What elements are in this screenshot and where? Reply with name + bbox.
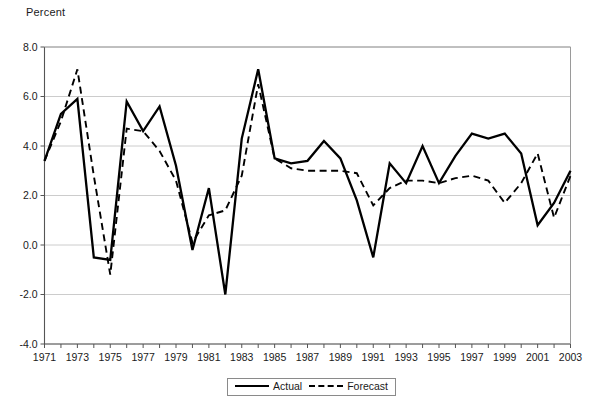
chart-container: Percent 8.06.04.02.00.0-2.0-4.0 19711973… xyxy=(0,0,597,407)
x-tick-label: 1989 xyxy=(329,351,353,363)
x-tick-label: 1979 xyxy=(164,351,188,363)
legend-label-actual: Actual xyxy=(273,381,302,392)
y-tick-label: 4.0 xyxy=(23,140,38,152)
y-axis-ticks: 8.06.04.02.00.0-2.0-4.0 xyxy=(19,41,44,350)
x-tick-label: 1985 xyxy=(263,351,287,363)
x-tick-label: 1975 xyxy=(99,351,123,363)
series-line-forecast xyxy=(45,69,571,274)
legend-entry-actual: Actual xyxy=(235,381,302,392)
x-axis-ticks: 1971197319751977197919811983198519871989… xyxy=(33,344,583,363)
x-tick-label: 1999 xyxy=(493,351,517,363)
chart-legend: Actual Forecast xyxy=(227,378,396,396)
series-line-actual xyxy=(45,69,571,294)
legend-swatch-actual-solid-line xyxy=(235,385,269,387)
y-tick-label: -2.0 xyxy=(19,288,37,300)
line-chart-plot: 8.06.04.02.00.0-2.0-4.0 1971197319751977… xyxy=(0,0,597,407)
x-tick-label: 1987 xyxy=(296,351,320,363)
gridlines xyxy=(45,47,571,344)
x-tick-label: 2001 xyxy=(526,351,550,363)
y-tick-label: 0.0 xyxy=(23,239,38,251)
legend-label-forecast: Forecast xyxy=(347,381,388,392)
x-tick-label: 1995 xyxy=(427,351,451,363)
y-tick-label: -4.0 xyxy=(19,338,37,350)
y-tick-label: 2.0 xyxy=(23,189,38,201)
x-tick-label: 1997 xyxy=(460,351,484,363)
x-tick-label: 1993 xyxy=(394,351,418,363)
x-tick-label: 1977 xyxy=(131,351,155,363)
y-tick-label: 6.0 xyxy=(23,90,38,102)
data-series xyxy=(45,69,571,294)
legend-swatch-forecast-dashed-line xyxy=(309,385,343,387)
y-tick-label: 8.0 xyxy=(23,41,38,53)
x-tick-label: 1983 xyxy=(230,351,254,363)
x-tick-label: 1973 xyxy=(66,351,90,363)
x-tick-label: 2003 xyxy=(559,351,583,363)
x-tick-label: 1971 xyxy=(33,351,57,363)
x-tick-label: 1981 xyxy=(197,351,221,363)
legend-entry-forecast: Forecast xyxy=(309,381,388,392)
x-tick-label: 1991 xyxy=(362,351,386,363)
